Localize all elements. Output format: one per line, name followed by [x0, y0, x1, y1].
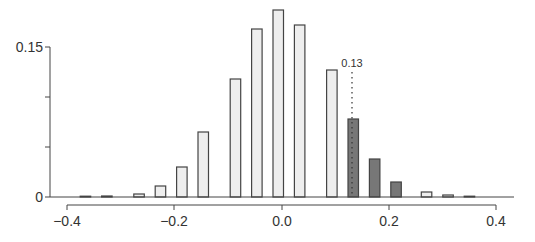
histogram-bar — [421, 192, 432, 197]
histogram-bar — [327, 70, 338, 197]
histogram-bar — [252, 29, 263, 197]
histogram-bar — [177, 167, 188, 197]
x-tick-label: 0.4 — [486, 213, 506, 229]
histogram-bar — [155, 186, 166, 197]
bars-group — [80, 10, 475, 197]
observed-value-label: 0.13 — [341, 57, 362, 69]
x-tick-label: 0.2 — [379, 213, 399, 229]
x-tick-label: −0.2 — [160, 213, 188, 229]
histogram-bar-highlighted — [391, 182, 402, 197]
histogram-bar — [294, 25, 305, 197]
histogram-bar — [273, 10, 284, 197]
x-axis: −0.4 −0.2 0.0 0.2 0.4 — [53, 205, 506, 229]
histogram-bar-highlighted — [348, 119, 359, 197]
histogram-bar-highlighted — [369, 159, 380, 197]
histogram-bar — [230, 79, 241, 197]
histogram-chart: 0.15 0 −0.4 −0.2 0.0 0.2 0.4 0.13 — [0, 0, 535, 242]
x-tick-label: −0.4 — [53, 213, 81, 229]
x-tick-label: 0.0 — [272, 213, 292, 229]
y-tick-label-top: 0.15 — [16, 39, 43, 55]
histogram-bar — [198, 132, 209, 197]
y-tick-label-bottom: 0 — [35, 189, 43, 205]
y-axis: 0.15 0 — [16, 39, 50, 205]
